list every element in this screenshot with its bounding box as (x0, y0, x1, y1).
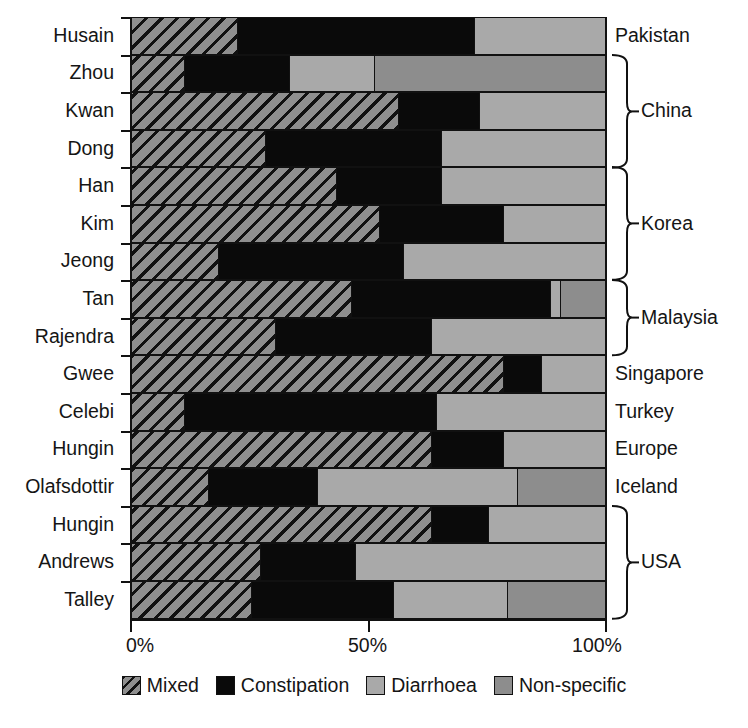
country-label-iceland: Iceland (615, 477, 678, 497)
country-label-usa: USA (641, 552, 681, 572)
bar-row (132, 55, 607, 93)
y-axis-tick (121, 167, 132, 169)
bar-segment-constipation (431, 432, 502, 468)
bar-segment-constipation (503, 356, 541, 392)
bar-segment-diarrhoea (503, 432, 608, 468)
study-label-hungin-13: Hungin (0, 515, 114, 535)
bar-segment-diarrhoea (441, 168, 607, 204)
bar-segment-constipation (260, 544, 355, 580)
study-label-han-4: Han (0, 176, 114, 196)
bar-segment-mixed (132, 319, 275, 355)
non-specific-gray-swatch (494, 676, 513, 695)
legend-label: Non-specific (519, 676, 626, 696)
bar-segment-constipation (379, 206, 503, 242)
bar-segment-diarrhoea (550, 281, 560, 317)
bar-segment-mixed (132, 56, 184, 92)
bar-segment-non-specific (507, 582, 607, 618)
bar-segment-mixed (132, 18, 237, 54)
x-axis: 0%50%100% (130, 619, 607, 621)
bar-segment-mixed (132, 507, 431, 543)
bar-segment-constipation (184, 394, 436, 430)
mixed-hatch-swatch (122, 676, 141, 695)
bar-segment-diarrhoea (503, 206, 608, 242)
legend-item-non-specific: Non-specific (494, 676, 626, 696)
bar-row (132, 280, 607, 318)
legend-label: Constipation (241, 676, 349, 696)
bar-segment-constipation (431, 507, 488, 543)
study-label-gwee-9: Gwee (0, 364, 114, 384)
plot-area (130, 17, 607, 619)
study-label-talley-15: Talley (0, 590, 114, 610)
bar-segment-diarrhoea (436, 394, 607, 430)
legend-item-mixed: Mixed (122, 676, 199, 696)
bar-segment-constipation (251, 582, 394, 618)
bar-segment-diarrhoea (431, 319, 607, 355)
bar-row (132, 431, 607, 469)
y-axis-tick (121, 581, 132, 583)
legend-item-constipation: Constipation (216, 676, 349, 696)
bar-row (132, 130, 607, 168)
country-label-europe: Europe (615, 439, 678, 459)
study-label-kwan-2: Kwan (0, 101, 114, 121)
study-label-celebi-10: Celebi (0, 402, 114, 422)
bar-row (132, 205, 607, 243)
study-label-rajendra-8: Rajendra (0, 327, 114, 347)
bar-row (132, 468, 607, 506)
study-label-tan-7: Tan (0, 289, 114, 309)
y-axis-tick (121, 543, 132, 545)
country-bracket-china (611, 53, 639, 170)
country-label-turkey: Turkey (615, 402, 674, 422)
chart-legend: MixedConstipationDiarrhoeaNon-specific (0, 676, 748, 696)
bar-segment-constipation (184, 56, 289, 92)
bar-row (132, 92, 607, 130)
legend-item-diarrhoea: Diarrhoea (366, 676, 477, 696)
bar-row (132, 167, 607, 205)
bar-segment-mixed (132, 244, 218, 280)
country-label-singapore: Singapore (615, 364, 704, 384)
legend-label: Diarrhoea (391, 676, 477, 696)
bar-segment-mixed (132, 93, 398, 129)
bar-segment-diarrhoea (403, 244, 607, 280)
bar-segment-constipation (351, 281, 551, 317)
bar-segment-mixed (132, 281, 351, 317)
bar-segment-mixed (132, 168, 336, 204)
y-axis-tick (121, 393, 132, 395)
bar-segment-mixed (132, 131, 265, 167)
stacked-bar-chart: HusainZhouKwanDongHanKimJeongTanRajendra… (0, 0, 748, 728)
bar-segment-mixed (132, 432, 431, 468)
y-axis-tick (121, 130, 132, 132)
x-axis-tick-label: 100% (572, 636, 622, 656)
y-axis-tick (121, 355, 132, 357)
y-axis-tick (121, 17, 132, 19)
x-axis-tick-label: 50% (348, 636, 387, 656)
bar-segment-non-specific (374, 56, 607, 92)
bar-row (132, 243, 607, 281)
study-label-olafsdottir-12: Olafsdottir (0, 477, 114, 497)
bar-segment-constipation (208, 469, 317, 505)
y-axis-tick (121, 55, 132, 57)
bar-segment-mixed (132, 544, 260, 580)
bar-segment-constipation (336, 168, 441, 204)
x-axis-tick (130, 621, 132, 632)
bar-segment-mixed (132, 206, 379, 242)
study-label-husain-0: Husain (0, 26, 114, 46)
country-bracket-korea (611, 165, 639, 282)
bar-segment-constipation (218, 244, 403, 280)
x-axis-tick (368, 621, 370, 632)
study-label-kim-5: Kim (0, 214, 114, 234)
bar-segment-diarrhoea (289, 56, 375, 92)
country-label-korea: Korea (641, 214, 693, 234)
bar-segment-diarrhoea (479, 93, 607, 129)
bar-segment-diarrhoea (441, 131, 607, 167)
y-axis-tick (121, 243, 132, 245)
bar-segment-mixed (132, 356, 503, 392)
x-axis-tick-label: 0% (126, 636, 154, 656)
diarrhoea-gray-swatch (366, 676, 385, 695)
bar-row (132, 393, 607, 431)
country-label-pakistan: Pakistan (615, 26, 690, 46)
bar-segment-diarrhoea (393, 582, 507, 618)
study-label-andrews-14: Andrews (0, 552, 114, 572)
study-label-dong-3: Dong (0, 139, 114, 159)
y-axis-tick (121, 318, 132, 320)
bar-segment-constipation (265, 131, 441, 167)
